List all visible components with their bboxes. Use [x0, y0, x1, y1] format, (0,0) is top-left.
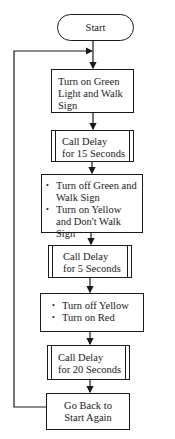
delay-5-line-1: Call Delay — [63, 251, 125, 263]
start-terminal: Start — [57, 14, 134, 41]
delay-5-subroutine: Call Delay for 5 Seconds — [48, 245, 132, 278]
yellow-on-step: Turn off Green and Walk Sign Turn on Yel… — [41, 174, 143, 233]
red-on-bullet-1: Turn off Yellow — [51, 300, 139, 312]
yellow-on-bullet-2: Turn on Yellow and Don't Walk Sign — [45, 204, 138, 240]
green-on-line-1: Turn on Green — [58, 76, 127, 88]
green-on-line-2: Light and Walk — [58, 88, 127, 100]
go-back-line-2: Start Again — [53, 412, 123, 424]
delay-20-line-1: Call Delay — [58, 352, 123, 364]
go-back-step: Go Back to Start Again — [46, 393, 130, 430]
red-on-bullet-2: Turn on Red — [51, 312, 139, 324]
delay-15-subroutine: Call Delay for 15 Seconds — [51, 130, 134, 162]
yellow-on-bullet-1: Turn off Green and Walk Sign — [45, 180, 138, 204]
green-on-line-3: Sign — [58, 100, 127, 112]
green-on-step: Turn on Green Light and Walk Sign — [51, 69, 134, 113]
delay-15-line-1: Call Delay — [62, 136, 127, 148]
red-on-step: Turn off Yellow Turn on Red — [40, 293, 144, 332]
delay-15-line-2: for 15 Seconds — [62, 148, 127, 160]
delay-20-line-2: for 20 Seconds — [58, 364, 123, 376]
delay-5-line-2: for 5 Seconds — [63, 263, 125, 275]
start-label: Start — [86, 22, 106, 34]
delay-20-subroutine: Call Delay for 20 Seconds — [47, 345, 130, 380]
go-back-line-1: Go Back to — [53, 400, 123, 412]
